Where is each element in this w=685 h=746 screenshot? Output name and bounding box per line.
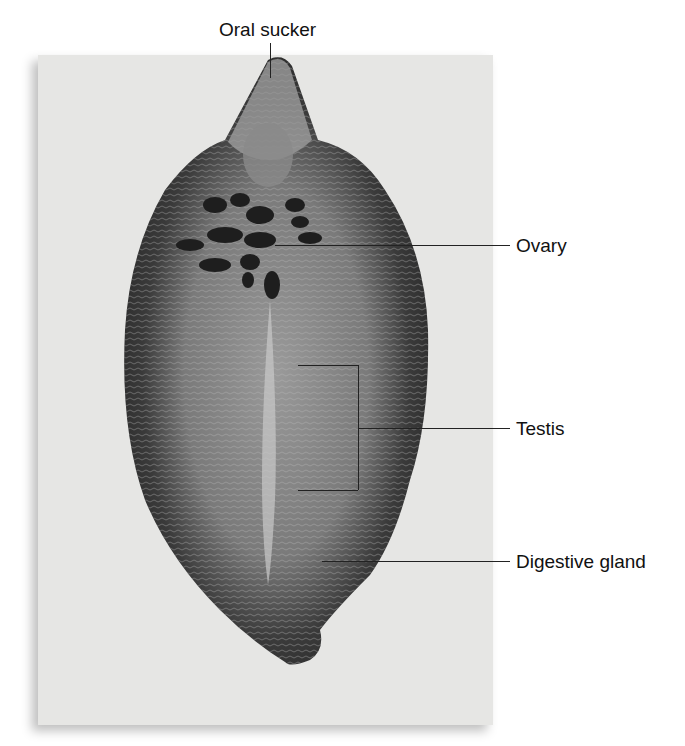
label-oral-sucker: Oral sucker: [219, 19, 316, 41]
label-digestive-gland: Digestive gland: [516, 551, 646, 573]
label-ovary: Ovary: [516, 235, 567, 257]
leader-line-digestive-gland: [322, 561, 510, 562]
label-testis: Testis: [516, 418, 565, 440]
testis-bracket-bottom: [298, 490, 358, 491]
testis-bracket-top: [298, 365, 358, 366]
leader-line-oral-sucker: [270, 43, 271, 78]
fluke-specimen-image: [0, 0, 685, 746]
leader-line-ovary: [275, 245, 510, 246]
leader-line-testis: [358, 428, 510, 429]
